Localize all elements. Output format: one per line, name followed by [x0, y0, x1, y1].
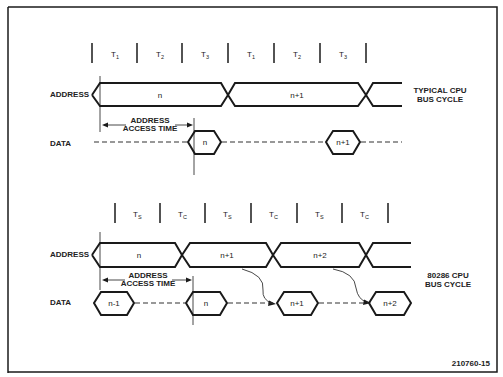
state-label: TS — [133, 210, 142, 220]
caption-bottom-2: BUS CYCLE — [425, 280, 472, 289]
state-label: TC — [360, 210, 369, 220]
figure-id: 210760-15 — [452, 359, 491, 368]
data-value: n-1 — [108, 299, 120, 308]
access-time-label-2: ACCESS TIME — [123, 124, 178, 133]
address-value: n+1 — [290, 91, 304, 100]
address-value: n+1 — [220, 251, 234, 260]
address-value: n — [137, 251, 141, 260]
data-value: n — [204, 299, 208, 308]
80286-cpu-section: TS TC TS TC TS TC ADDRESS DATA n n+1 n+2… — [50, 203, 472, 325]
state-label: TC — [269, 210, 278, 220]
data-value: n+1 — [336, 138, 350, 147]
state-label: T1 — [247, 50, 255, 60]
state-label: T3 — [201, 50, 209, 60]
address-label: ADDRESS — [50, 90, 90, 99]
state-label: T2 — [156, 50, 164, 60]
state-label: TS — [223, 210, 232, 220]
state-labels-top: T1 T2 T3 T1 T2 T3 — [111, 50, 347, 60]
caption-top: TYPICAL CPU — [413, 86, 466, 95]
bus-cycle-diagram: T1 T2 T3 T1 T2 T3 ADDRESS DATA n n+1 TYP… — [0, 0, 503, 377]
data-label: DATA — [50, 139, 71, 148]
state-label: TS — [315, 210, 324, 220]
data-label: DATA — [50, 298, 71, 307]
state-label: T3 — [339, 50, 347, 60]
data-value: n+1 — [290, 299, 304, 308]
address-value: n+2 — [313, 251, 327, 260]
state-label: T2 — [293, 50, 301, 60]
address-label: ADDRESS — [50, 250, 90, 259]
data-value: n — [203, 138, 207, 147]
caption-bottom: 80286 CPU — [427, 271, 469, 280]
state-label: TC — [178, 210, 187, 220]
data-value: n+2 — [383, 299, 397, 308]
caption-top-2: BUS CYCLE — [417, 95, 464, 104]
state-label: T1 — [111, 50, 119, 60]
access-time-label-2: ACCESS TIME — [121, 279, 176, 288]
address-value: n — [158, 91, 162, 100]
typical-cpu-section: T1 T2 T3 T1 T2 T3 ADDRESS DATA n n+1 TYP… — [50, 43, 467, 175]
